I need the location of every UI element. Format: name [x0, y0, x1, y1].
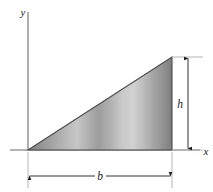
figure-container: h b y x — [0, 0, 213, 192]
height-dimension: h — [172, 57, 203, 150]
height-label: h — [177, 98, 183, 110]
triangle-area-diagram: h b y x — [0, 0, 213, 192]
triangle-shape — [28, 57, 172, 150]
base-dimension: b — [28, 152, 172, 188]
triangle-fill — [28, 57, 172, 150]
y-axis-label: y — [20, 6, 26, 18]
base-label: b — [97, 170, 103, 182]
x-axis-label: x — [203, 145, 209, 157]
